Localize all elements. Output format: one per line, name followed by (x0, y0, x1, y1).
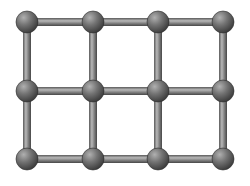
lattice-node (82, 11, 104, 33)
lattice-node (212, 11, 234, 33)
lattice-diagram (0, 0, 250, 186)
lattice-node (82, 80, 104, 102)
lattice-node (16, 80, 38, 102)
lattice-node (147, 80, 169, 102)
lattice-node (212, 80, 234, 102)
lattice-node (212, 148, 234, 170)
lattice-node (16, 11, 38, 33)
bond-group (23, 18, 227, 163)
lattice-node (147, 11, 169, 33)
lattice-node (16, 148, 38, 170)
lattice-node (82, 148, 104, 170)
lattice-node (147, 148, 169, 170)
